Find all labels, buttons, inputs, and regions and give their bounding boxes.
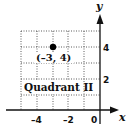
x-tick-neg4: –4: [31, 115, 42, 125]
y-tick-4: 4: [103, 43, 109, 53]
grid: [21, 31, 100, 110]
x-tick-neg2: –2: [63, 115, 74, 125]
x-axis-label: x: [118, 111, 126, 124]
coordinate-plane: x y –4 –2 0 4 2 (–3, 4) Quadrant II: [0, 0, 129, 133]
x-tick-0: 0: [91, 115, 97, 125]
point-label: (–3, 4): [36, 52, 71, 64]
quadrant-label: Quadrant II: [24, 81, 93, 94]
y-axis-arrow-icon: [97, 14, 104, 24]
x-axis-arrow-icon: [110, 107, 119, 114]
y-tick-2: 2: [103, 75, 109, 85]
y-axis-label: y: [95, 0, 104, 13]
data-point: [50, 44, 56, 50]
